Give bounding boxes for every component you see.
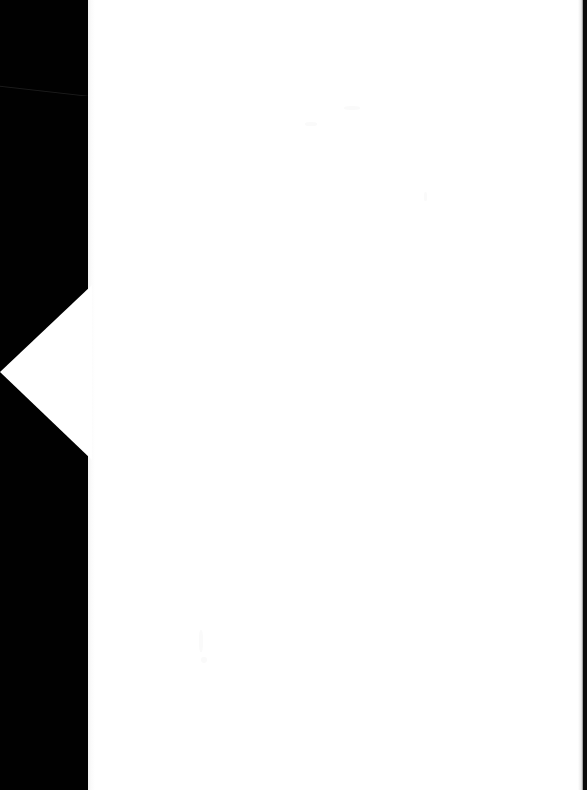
scanned-page-viewport	[0, 0, 587, 790]
page-corner-wedge	[0, 282, 92, 463]
page-sheet	[88, 0, 585, 790]
page-corner-wedge-shape	[0, 282, 92, 463]
scanner-backdrop-right	[583, 0, 587, 790]
